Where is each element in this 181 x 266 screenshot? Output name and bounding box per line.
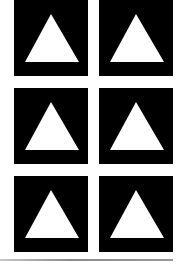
triangle-up-icon — [14, 0, 88, 76]
tile-4 — [99, 88, 173, 164]
tile-5 — [14, 176, 88, 252]
tile-1 — [14, 0, 88, 76]
horizontal-divider — [0, 259, 173, 261]
triangle-up-icon — [99, 0, 173, 76]
triangle-up-icon — [14, 176, 88, 252]
triangle-up-icon — [14, 88, 88, 164]
tile-3 — [14, 88, 88, 164]
triangle-up-icon — [99, 176, 173, 252]
triangle-tile-grid — [14, 0, 173, 252]
tile-2 — [99, 0, 173, 76]
triangle-up-icon — [99, 88, 173, 164]
tile-6 — [99, 176, 173, 252]
